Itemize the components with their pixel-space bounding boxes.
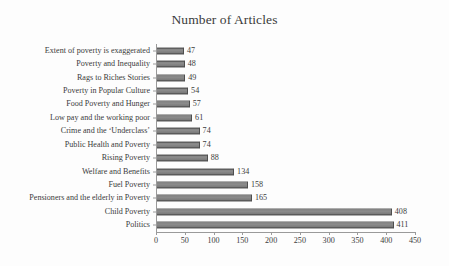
bar — [157, 141, 200, 148]
bar-value-label: 48 — [188, 60, 196, 68]
bar-row: Fuel Poverty158 — [156, 178, 415, 191]
category-label: Politics — [126, 221, 150, 229]
bar-value-label: 61 — [195, 114, 203, 122]
bar — [157, 168, 234, 175]
x-tick-mark — [242, 232, 243, 235]
y-tick-mark — [153, 171, 156, 172]
y-tick-mark — [153, 117, 156, 118]
bar-row: Poverty in Popular Culture54 — [156, 84, 415, 97]
x-tick-mark — [271, 232, 272, 235]
bar — [157, 195, 252, 202]
plot-area: Extent of poverty is exaggerated47Povert… — [156, 44, 415, 232]
bar — [157, 181, 248, 188]
x-tick-label: 100 — [207, 237, 219, 245]
category-label: Pensioners and the elderly in Poverty — [29, 194, 150, 202]
x-tick-mark — [357, 232, 358, 235]
y-tick-mark — [153, 198, 156, 199]
category-label: Poverty and Inequality — [76, 60, 150, 68]
bar-chart: Number of Articles Extent of poverty is … — [0, 0, 449, 266]
bar-value-label: 74 — [203, 127, 211, 135]
bar — [157, 155, 208, 162]
x-tick-label: 300 — [323, 237, 335, 245]
bar-row: Politics411 — [156, 218, 415, 231]
bar-row: Pensioners and the elderly in Poverty165 — [156, 192, 415, 205]
category-label: Rising Poverty — [102, 154, 150, 162]
bar-value-label: 57 — [193, 100, 201, 108]
bar — [157, 128, 200, 135]
x-tick-label: 400 — [380, 237, 392, 245]
bar — [157, 101, 190, 108]
y-tick-mark — [153, 77, 156, 78]
bar-row: Poverty and Inequality48 — [156, 57, 415, 70]
y-tick-mark — [153, 90, 156, 91]
bar — [157, 74, 185, 81]
x-tick-mark — [214, 232, 215, 235]
x-tick-mark — [185, 232, 186, 235]
x-tick-label: 450 — [409, 237, 421, 245]
y-tick-mark — [153, 144, 156, 145]
bar-value-label: 54 — [191, 87, 199, 95]
category-label: Extent of poverty is exaggerated — [45, 47, 150, 55]
bar-row: Rags to Riches Stories49 — [156, 71, 415, 84]
x-tick-mark — [300, 232, 301, 235]
x-tick-mark — [415, 232, 416, 235]
bar — [157, 114, 192, 121]
y-tick-mark — [153, 211, 156, 212]
bar-row: Low pay and the working poor61 — [156, 111, 415, 124]
x-tick-mark — [156, 232, 157, 235]
x-tick-label: 0 — [154, 237, 158, 245]
bar-row: Extent of poverty is exaggerated47 — [156, 44, 415, 57]
category-label: Fuel Poverty — [108, 181, 150, 189]
category-label: Low pay and the working poor — [50, 114, 150, 122]
bar-value-label: 158 — [251, 181, 263, 189]
bar — [157, 61, 185, 68]
bar-row: Welfare and Benefits134 — [156, 165, 415, 178]
bar-value-label: 411 — [397, 221, 409, 229]
x-tick-label: 200 — [265, 237, 277, 245]
y-tick-mark — [153, 104, 156, 105]
category-label: Crime and the ‘Underclass’ — [61, 127, 150, 135]
bar-row: Child Poverty408 — [156, 205, 415, 218]
bar-value-label: 47 — [187, 47, 195, 55]
category-label: Public Health and Poverty — [65, 141, 150, 149]
x-tick-label: 250 — [294, 237, 306, 245]
bar-value-label: 74 — [203, 141, 211, 149]
y-tick-mark — [153, 184, 156, 185]
category-label: Food Poverty and Hunger — [66, 100, 150, 108]
bar-row: Food Poverty and Hunger57 — [156, 98, 415, 111]
bar-row: Rising Poverty88 — [156, 151, 415, 164]
bar — [157, 208, 392, 215]
y-tick-mark — [153, 158, 156, 159]
x-tick-label: 350 — [351, 237, 363, 245]
x-tick-label: 150 — [236, 237, 248, 245]
category-label: Child Poverty — [105, 208, 150, 216]
bar — [157, 47, 184, 54]
bar-value-label: 165 — [255, 194, 267, 202]
bar — [157, 87, 188, 94]
bar-value-label: 88 — [211, 154, 219, 162]
bar-value-label: 408 — [395, 208, 407, 216]
y-tick-mark — [153, 50, 156, 51]
y-tick-mark — [153, 131, 156, 132]
category-label: Poverty in Popular Culture — [63, 87, 150, 95]
bar-row: Public Health and Poverty74 — [156, 138, 415, 151]
category-label: Welfare and Benefits — [82, 167, 150, 175]
category-label: Rags to Riches Stories — [77, 74, 150, 82]
y-tick-mark — [153, 64, 156, 65]
bar-value-label: 134 — [237, 167, 249, 175]
x-tick-mark — [386, 232, 387, 235]
bar-row: Crime and the ‘Underclass’74 — [156, 125, 415, 138]
x-axis-line — [156, 232, 415, 233]
y-tick-mark — [153, 225, 156, 226]
bar-rows: Extent of poverty is exaggerated47Povert… — [156, 44, 415, 232]
x-tick-mark — [329, 232, 330, 235]
x-tick-label: 50 — [181, 237, 189, 245]
chart-title: Number of Articles — [0, 12, 449, 28]
bar-value-label: 49 — [188, 74, 196, 82]
bar — [157, 222, 394, 229]
